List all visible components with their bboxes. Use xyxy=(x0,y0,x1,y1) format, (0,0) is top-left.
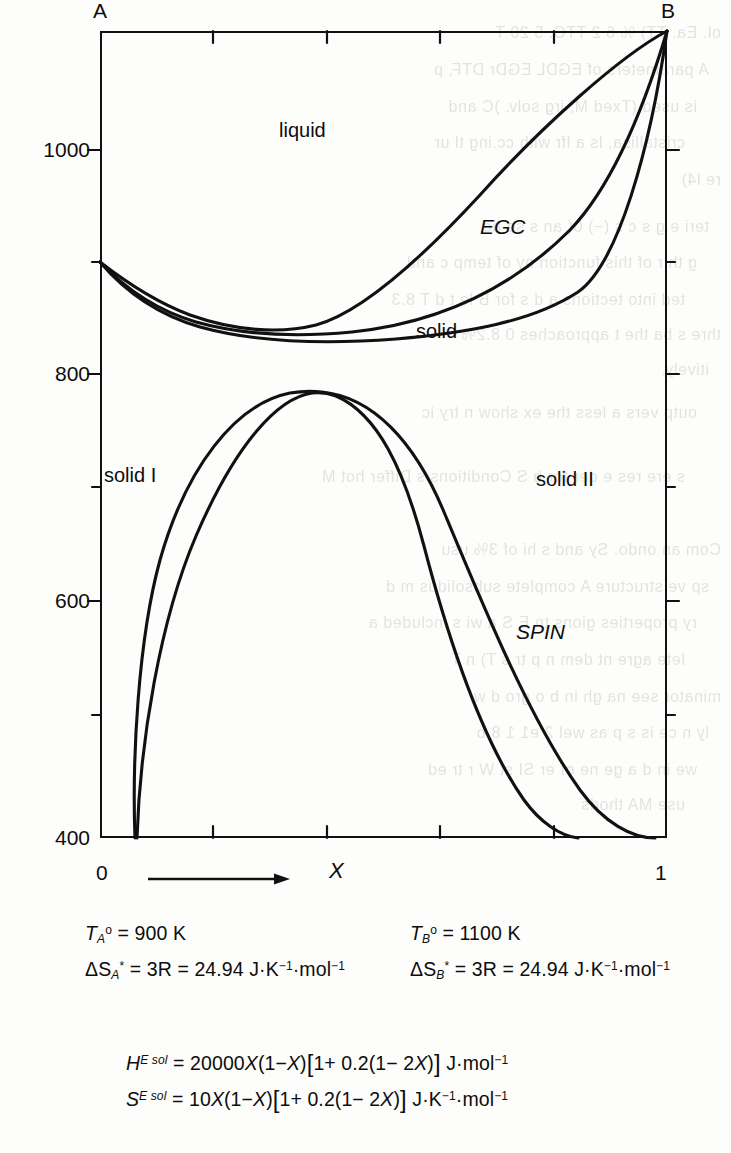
eq-h-units: J·mol xyxy=(446,1052,494,1074)
curve-egc xyxy=(100,31,667,342)
eq-s-inner: 1+ 0.2(1− 2 xyxy=(279,1088,380,1110)
eq-s-symbol: S xyxy=(126,1088,139,1110)
x-axis-direction-arrow xyxy=(148,872,290,886)
eq-dsa-symbol: ΔS xyxy=(85,958,111,980)
eq-s-x1: X xyxy=(211,1088,224,1110)
equation-entropy-b: ΔSB* = 3R = 24.94 J·K−1·mol−1 xyxy=(410,958,670,982)
eq-s-sup: E sol xyxy=(139,1089,166,1103)
equation-excess-enthalpy: HE sol = 20000X(1−X)[1+ 0.2(1− 2X)] J·mo… xyxy=(126,1050,508,1078)
eq-h-rhs3: ) xyxy=(300,1052,307,1074)
eq-s-units1: J·K xyxy=(412,1088,442,1110)
eq-dsa-value: = 3R = 24.94 J·K xyxy=(130,958,279,980)
eq-s-x2: X xyxy=(253,1088,266,1110)
eq-s-rhs1: = 10 xyxy=(172,1088,211,1110)
eq-s-units2: ·mol xyxy=(456,1088,494,1110)
equation-excess-entropy: SE sol = 10X(1−X)[1+ 0.2(1− 2X)] J·K−1·m… xyxy=(126,1086,508,1114)
eq-s-bracket-close: ] xyxy=(400,1086,407,1113)
axis-ticks xyxy=(88,31,679,838)
eq-s-inner-x: X xyxy=(380,1088,393,1110)
eq-h-x2: X xyxy=(287,1052,300,1074)
eq-h-inner-x: X xyxy=(414,1052,427,1074)
curve-liquidus xyxy=(100,31,667,330)
eq-h-bracket-close: ] xyxy=(434,1050,441,1077)
eq-s-rhs2: (1− xyxy=(224,1088,253,1110)
eq-h-rhs2: (1− xyxy=(258,1052,287,1074)
eq-h-sup: E sol xyxy=(140,1053,167,1067)
eq-h-inner-close: ) xyxy=(427,1052,434,1074)
equation-entropy-a: ΔSA* = 3R = 24.94 J·K−1·mol−1 xyxy=(85,958,345,982)
eq-ta-value: = 900 K xyxy=(118,922,186,944)
eq-tb-value: = 1100 K xyxy=(443,922,521,944)
eq-h-x1: X xyxy=(245,1052,258,1074)
eq-h-inner: 1+ 0.2(1− 2 xyxy=(313,1052,414,1074)
eq-dsa-tail: ·mol xyxy=(293,958,331,980)
equation-melting-point-a: TAo = 900 K xyxy=(85,922,186,946)
equation-melting-point-b: TBo = 1100 K xyxy=(410,922,521,946)
eq-s-rhs3: ) xyxy=(266,1088,273,1110)
eq-dsb-value: = 3R = 24.94 J·K xyxy=(455,958,604,980)
eq-h-rhs1: = 20000 xyxy=(173,1052,245,1074)
eq-dsb-symbol: ΔS xyxy=(410,958,436,980)
eq-dsb-tail: ·mol xyxy=(618,958,656,980)
eq-h-symbol: H xyxy=(126,1052,140,1074)
